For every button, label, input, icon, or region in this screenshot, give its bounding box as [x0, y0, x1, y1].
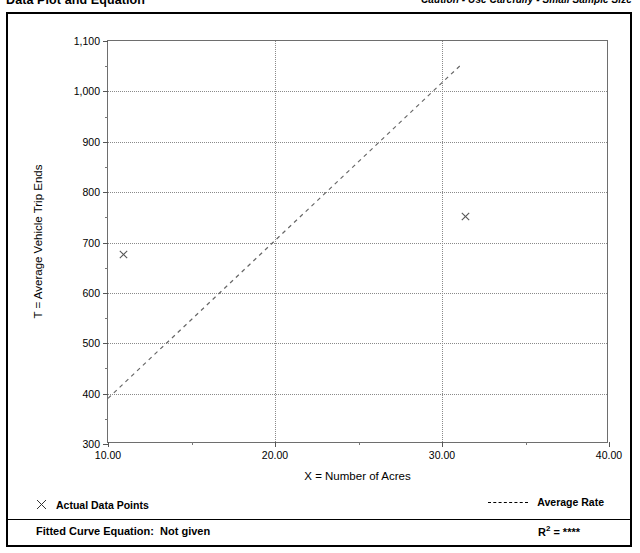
legend-label-actual-data-points: Actual Data Points [56, 499, 149, 511]
x-tick-major [275, 442, 276, 447]
x-tick-label: 20.00 [262, 449, 288, 461]
y-axis-title: T = Average Vehicle Trip Ends [32, 40, 46, 443]
page-header: Data Plot and Equation Caution - Use Car… [0, 0, 640, 12]
caution-note: Caution - Use Carefully - Small Sample S… [421, 0, 632, 5]
y-tick-label: 800 [82, 186, 100, 198]
r-squared-value: R2 = **** [538, 524, 580, 538]
dashed-line-icon [488, 502, 528, 503]
average-rate-trendline [108, 41, 607, 442]
fitted-curve-equation: Fitted Curve Equation: Not given [36, 525, 210, 537]
x-tick-major [108, 442, 109, 447]
y-tick-label: 500 [82, 337, 100, 349]
page-title: Data Plot and Equation [6, 0, 145, 7]
x-tick-label: 30.00 [429, 449, 455, 461]
y-tick-label: 1,100 [74, 35, 100, 47]
x-tick-minor [359, 442, 360, 445]
y-tick-label: 700 [82, 237, 100, 249]
x-tick-minor [526, 442, 527, 445]
y-tick-label: 1,000 [74, 85, 100, 97]
legend-item-actual-data-points: Actual Data Points [36, 496, 149, 514]
x-tick-label: 10.00 [95, 449, 121, 461]
legend-label-average-rate: Average Rate [537, 496, 604, 508]
chart-footer: Fitted Curve Equation: Not given R2 = **… [8, 520, 630, 545]
y-tick-label: 600 [82, 287, 100, 299]
legend-item-average-rate: Average Rate [488, 496, 604, 508]
x-tick-minor [192, 442, 193, 445]
y-tick-label: 900 [82, 136, 100, 148]
x-axis-title: X = Number of Acres [107, 470, 608, 482]
x-marker-icon [36, 496, 47, 514]
chart-card: T = Average Vehicle Trip Ends 3004005006… [6, 12, 632, 547]
x-tick-label: 40.00 [596, 449, 622, 461]
x-tick-major [609, 442, 610, 447]
r2-number: = **** [550, 526, 580, 538]
x-tick-major [442, 442, 443, 447]
chart-region: T = Average Vehicle Trip Ends 3004005006… [8, 14, 630, 492]
plot-area: 3004005006007008009001,0001,100 10.0020.… [107, 40, 608, 443]
chart-legend: Actual Data Points Average Rate [8, 492, 630, 519]
y-tick-label: 400 [82, 388, 100, 400]
r2-prefix: R [538, 526, 546, 538]
